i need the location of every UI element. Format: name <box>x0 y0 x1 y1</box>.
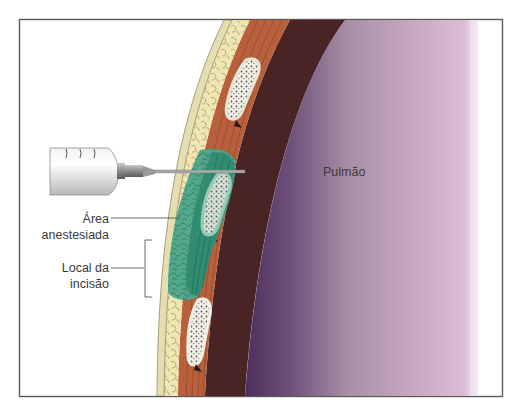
chest-wall-anesthesia-diagram: Área anestesiada Local da incisão Pulmão <box>0 0 511 409</box>
label-incision-line2: incisão <box>70 277 109 291</box>
needle-hub <box>125 165 143 177</box>
syringe-hub <box>117 163 125 179</box>
lung-right-fade <box>470 20 478 396</box>
label-area-line2: anestesiada <box>42 228 109 242</box>
label-area-line1: Área <box>83 211 109 226</box>
syringe-barrel <box>50 148 118 195</box>
label-incision-line1: Local da <box>62 261 109 275</box>
needle <box>155 170 245 173</box>
label-lung: Pulmão <box>323 165 365 179</box>
